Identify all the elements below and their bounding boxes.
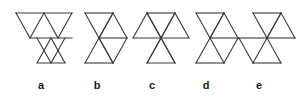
- figure-d: [196, 13, 238, 63]
- figure-e-stroke: [239, 38, 253, 63]
- figure-label-a: a: [31, 79, 51, 91]
- figure-b-stroke: [99, 38, 127, 63]
- figure-d-stroke: [196, 38, 210, 63]
- figure-a-stroke: [37, 38, 65, 63]
- figure-e-stroke: [253, 38, 267, 63]
- figure-b-stroke: [99, 38, 113, 63]
- figure-d-stroke: [210, 13, 224, 38]
- figure-d-stroke: [210, 38, 224, 63]
- figure-a-stroke: [37, 38, 65, 63]
- figure-b-stroke: [113, 13, 127, 38]
- figure-a-stroke: [16, 13, 44, 38]
- figure-a-stroke: [44, 13, 72, 38]
- figure-a: [16, 13, 72, 63]
- figure-e-stroke: [267, 13, 281, 38]
- figure-c-stroke: [147, 38, 175, 63]
- figure-panel: a b c d e: [0, 0, 299, 100]
- figure-c-stroke: [147, 38, 161, 63]
- figure-c-stroke: [161, 13, 189, 38]
- figure-b-stroke: [85, 38, 99, 63]
- figure-b: [85, 13, 127, 63]
- figure-label-b: b: [87, 79, 107, 91]
- figure-e-stroke: [253, 13, 281, 38]
- figure-b-stroke: [85, 13, 113, 38]
- figure-e-stroke: [281, 13, 295, 38]
- figure-e: [239, 13, 295, 63]
- figure-c-stroke: [161, 38, 175, 63]
- figure-label-e: e: [249, 79, 269, 91]
- figure-e-stroke: [267, 38, 281, 63]
- figure-label-d: d: [196, 79, 216, 91]
- figure-d-stroke: [196, 13, 224, 38]
- figure-d-stroke: [224, 13, 238, 38]
- figure-b-stroke: [99, 13, 113, 38]
- figure-c-stroke: [147, 13, 175, 38]
- figure-d-stroke: [224, 38, 238, 63]
- figure-label-c: c: [142, 79, 162, 91]
- figure-c-stroke: [133, 13, 161, 38]
- figure-c: [133, 13, 189, 63]
